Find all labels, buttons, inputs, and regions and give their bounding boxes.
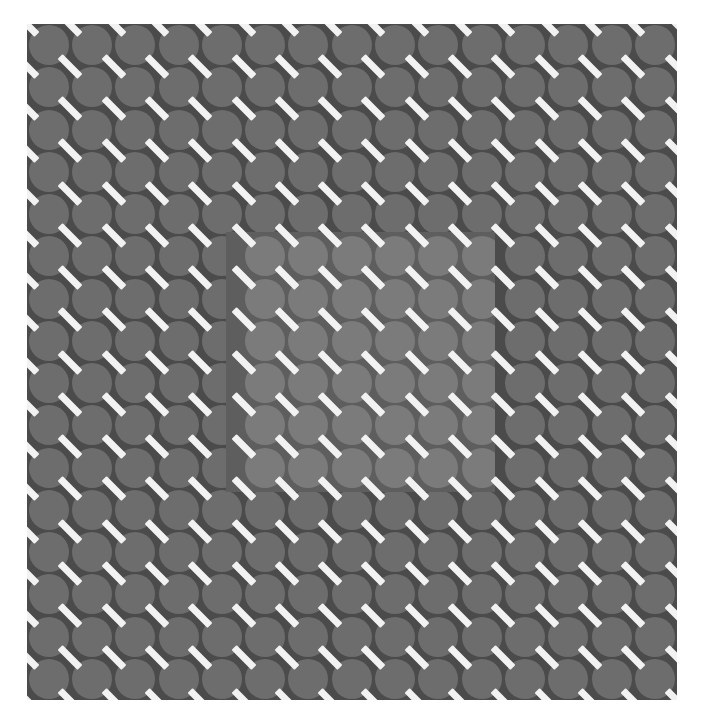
diagonal-dash (578, 688, 603, 700)
diagonal-dash (404, 434, 429, 459)
diagonal-dash (361, 561, 386, 586)
diagonal-dash (58, 434, 83, 459)
diagonal-dash (188, 265, 213, 290)
diagonal-dash (534, 645, 559, 670)
diagonal-dash (58, 24, 83, 36)
diagonal-dash (101, 476, 126, 501)
diagonal-dash (448, 138, 473, 163)
diagonal-dash (361, 265, 386, 290)
illusion-figure (27, 24, 677, 700)
diagonal-dash (231, 519, 256, 544)
diagonal-dash (448, 307, 473, 332)
diagonal-dash (101, 54, 126, 79)
diagonal-dash (318, 138, 343, 163)
diagonal-dash (145, 181, 170, 206)
diagonal-dash (664, 181, 677, 206)
diagonal-dash (145, 688, 170, 700)
diagonal-dash (231, 54, 256, 79)
diagonal-dash (578, 24, 603, 36)
diagonal-dash (621, 519, 646, 544)
diagonal-dash (27, 519, 39, 544)
diagonal-dash (274, 54, 299, 79)
diagonal-dash (491, 561, 516, 586)
diagonal-dash (404, 265, 429, 290)
diagonal-dash (404, 603, 429, 628)
diagonal-dash (101, 434, 126, 459)
diagonal-dash (621, 181, 646, 206)
diagonal-dash (621, 223, 646, 248)
diagonal-dash (621, 24, 646, 36)
diagonal-dash (448, 688, 473, 700)
diagonal-dash (491, 434, 516, 459)
diagonal-dash (448, 519, 473, 544)
diagonal-dash (58, 645, 83, 670)
diagonal-dash (58, 603, 83, 628)
diagonal-dash (404, 138, 429, 163)
diagonal-dash (361, 476, 386, 501)
dash-overlay-region (27, 24, 677, 700)
diagonal-dash (404, 392, 429, 417)
diagonal-dash (621, 96, 646, 121)
diagonal-dash (578, 392, 603, 417)
diagonal-dash (664, 392, 677, 417)
diagonal-dash (318, 688, 343, 700)
diagonal-dash (58, 307, 83, 332)
diagonal-dash (231, 688, 256, 700)
diagonal-dash (231, 434, 256, 459)
diagonal-dash (664, 645, 677, 670)
diagonal-dash (361, 223, 386, 248)
diagonal-dash (621, 350, 646, 375)
diagonal-dash (534, 265, 559, 290)
diagonal-dash (621, 688, 646, 700)
diagonal-dash (231, 265, 256, 290)
diagonal-dash (318, 561, 343, 586)
diagonal-dash (664, 519, 677, 544)
diagonal-dash (404, 645, 429, 670)
diagonal-dash (448, 223, 473, 248)
diagonal-dash (318, 392, 343, 417)
diagonal-dash (27, 96, 39, 121)
diagonal-dash (621, 434, 646, 459)
diagonal-dash (188, 54, 213, 79)
diagonal-dash (145, 54, 170, 79)
diagonal-dash (274, 181, 299, 206)
diagonal-dash (448, 54, 473, 79)
diagonal-dash (404, 350, 429, 375)
diagonal-dash (101, 181, 126, 206)
diagonal-dash (318, 645, 343, 670)
diagonal-dash (578, 603, 603, 628)
diagonal-dash (578, 181, 603, 206)
diagonal-dash (274, 24, 299, 36)
diagonal-dash (27, 645, 39, 670)
diagonal-dash (578, 476, 603, 501)
diagonal-dash (274, 603, 299, 628)
diagonal-dash (491, 645, 516, 670)
diagonal-dash (231, 476, 256, 501)
diagonal-dash (361, 603, 386, 628)
diagonal-dash (27, 688, 39, 700)
diagonal-dash (404, 519, 429, 544)
diagonal-dash (145, 307, 170, 332)
diagonal-dash (58, 223, 83, 248)
diagonal-dash (491, 476, 516, 501)
diagonal-dash (58, 688, 83, 700)
diagonal-dash (27, 350, 39, 375)
diagonal-dash (578, 265, 603, 290)
diagonal-dash (188, 138, 213, 163)
diagonal-dash (188, 307, 213, 332)
diagonal-dash (578, 138, 603, 163)
diagonal-dash (145, 603, 170, 628)
diagonal-dash (274, 223, 299, 248)
diagonal-dash (188, 603, 213, 628)
diagonal-dash (534, 24, 559, 36)
diagonal-dash (27, 434, 39, 459)
diagonal-dash (318, 181, 343, 206)
diagonal-dash (404, 181, 429, 206)
diagonal-dash (578, 307, 603, 332)
diagonal-dash (534, 476, 559, 501)
diagonal-dash (27, 223, 39, 248)
diagonal-dash (578, 54, 603, 79)
diagonal-dash (448, 645, 473, 670)
diagonal-dash (274, 434, 299, 459)
diagonal-dash (188, 350, 213, 375)
